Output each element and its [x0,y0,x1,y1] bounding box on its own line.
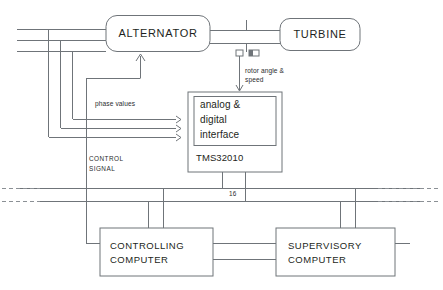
interface-label-line3: interface [200,129,239,141]
rotor-speed-sensor-fill-icon [249,50,253,56]
supervisory-computer-label-line1: SUPERVISORY [288,240,362,251]
phase-tap-drops [49,30,73,138]
chevron-input-3-icon [176,134,181,141]
bus-width-label: 16 [229,190,236,198]
rotor-transducers [236,50,259,56]
system-bus-lines [2,189,441,202]
control-signal-path [87,54,146,244]
inter-computer-links [213,244,276,260]
rotor-sensor-label-line2: speed [245,76,263,84]
rotor-shaft [210,20,280,52]
processor-bus-line-upper [17,172,223,189]
supervisory-computer-block[interactable] [276,228,395,276]
control-signal-label-line1: CONTROL [89,155,123,163]
turbine-label: TURBINE [280,28,360,41]
phase-value-lines [49,120,177,138]
control-signal-label-line2: SIGNAL [89,165,115,173]
chevron-input-1-icon [176,116,181,123]
block-diagram-canvas: ALTERNATOR TURBINE rotor angle & speed a… [0,0,443,290]
interface-input-chevrons [176,116,181,141]
processor-label: TMS32010 [196,152,243,163]
processor-bus-line-lower [246,172,421,202]
controlling-computer-label-line1: CONTROLLING [110,240,184,251]
three-phase-supply-lines [17,30,106,52]
processor-bus-stubs [17,172,420,202]
rotor-signal-path [236,56,243,91]
controlling-computer-block[interactable] [100,228,213,276]
rotor-angle-sensor-icon [236,50,243,56]
diagram-wiring-layer [0,0,443,290]
controlling-computer-label-line2: COMPUTER [110,254,168,265]
interface-label-line1: analog & [200,99,240,111]
alternator-label: ALTERNATOR [106,27,210,40]
phase-values-label: phase values [95,100,135,108]
computer-bus-drops [149,189,356,229]
interface-label-line2: digital [200,114,227,126]
supervisory-computer-label-line2: COMPUTER [288,254,346,265]
rotor-sensor-label-line1: rotor angle & [245,67,284,75]
chevron-input-2-icon [176,125,181,132]
